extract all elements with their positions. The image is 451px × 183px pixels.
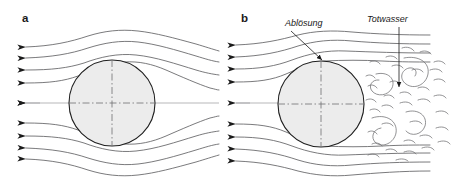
wake-squiggle: [434, 79, 445, 82]
wake-squiggle: [366, 99, 376, 102]
wake-squiggle: [382, 105, 393, 108]
wake-squiggle: [370, 61, 380, 64]
wake-squiggle: [402, 47, 414, 51]
figure-canvas: a b: [0, 0, 451, 183]
wake-squiggle: [396, 159, 408, 161]
wake-squiggle: [418, 99, 430, 102]
turbulent-wake-region: [366, 47, 450, 161]
wake-squiggle: [400, 92, 411, 95]
wake-squiggle: [400, 102, 412, 105]
wake-squiggle: [418, 87, 429, 90]
wake-squiggle: [382, 123, 393, 126]
callout-abloesung: Ablösung: [284, 18, 323, 60]
wake-squiggle: [412, 69, 423, 72]
panel-a: a: [22, 12, 219, 176]
wake-squiggle: [368, 85, 377, 88]
wake-squiggle: [436, 127, 448, 130]
wake-squiggle: [436, 111, 448, 114]
wake-squiggle: [422, 147, 434, 150]
panel-b-label: b: [241, 12, 248, 24]
wake-squiggle: [386, 149, 397, 152]
streamline-b-u4: [236, 31, 430, 45]
panel-b: b: [236, 12, 450, 176]
wake-squiggle: [420, 51, 431, 54]
wake-squiggle: [420, 135, 432, 138]
wake-squiggle: [430, 69, 442, 72]
wake-squiggle: [370, 109, 380, 112]
streamline-a-l4: [26, 155, 219, 176]
panel-a-label: a: [22, 12, 29, 24]
wake-squiggle: [404, 140, 415, 143]
wake-squiggle: [392, 65, 403, 68]
wake-squiggle: [390, 81, 400, 84]
callout-abloesung-label: Ablösung: [284, 18, 323, 28]
flow-around-sphere-figure: a b: [0, 0, 451, 183]
wake-squiggle: [366, 75, 375, 78]
streamline-b-l4: [236, 161, 430, 176]
wake-vortex-3: [372, 116, 396, 144]
wake-squiggle: [434, 61, 445, 64]
streamline-b-l3: [236, 149, 430, 166]
wake-squiggle: [368, 131, 377, 134]
wake-squiggle: [438, 141, 450, 144]
callout-totwasser-label: Totwasser: [367, 14, 409, 24]
streamline-b-u3: [236, 40, 430, 57]
wake-squiggle: [386, 56, 397, 59]
wake-squiggle: [434, 95, 446, 98]
wake-squiggle: [384, 95, 394, 98]
wake-vortex-4: [406, 111, 426, 134]
wake-squiggle: [410, 121, 422, 124]
streamline-a-u4: [26, 30, 219, 51]
